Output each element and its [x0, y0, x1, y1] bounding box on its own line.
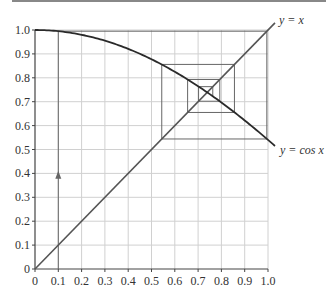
- cobweb-line: [58, 31, 267, 269]
- y-tick-label: 0.8: [15, 71, 30, 85]
- line-label: y = x: [278, 13, 304, 27]
- y-tick-label: 0: [24, 262, 30, 276]
- y-tick-label: 0.1: [15, 238, 30, 252]
- cobweb-path: [55, 31, 267, 269]
- curve-cos-x: [35, 30, 275, 146]
- x-tick-label: 1.0: [261, 274, 276, 288]
- x-tick-label: 0.3: [97, 274, 112, 288]
- y-tick-label: 0.3: [15, 190, 30, 204]
- cobweb-chart: 00.10.20.30.40.50.60.70.80.91.000.10.20.…: [0, 0, 336, 299]
- y-tick-label: 0.7: [15, 95, 30, 109]
- y-tick-label: 1.0: [15, 23, 30, 37]
- y-tick-label: 0.5: [15, 143, 30, 157]
- y-tick-label: 0.9: [15, 47, 30, 61]
- x-tick-label: 0.5: [144, 274, 159, 288]
- arrow-up-icon: [55, 171, 61, 179]
- x-tick-label: 0.2: [74, 274, 89, 288]
- y-tick-label: 0.2: [15, 214, 30, 228]
- x-tick-label: 0: [32, 274, 38, 288]
- y-tick-label: 0.4: [15, 166, 30, 180]
- x-tick-label: 0.8: [214, 274, 229, 288]
- series: [35, 23, 275, 269]
- x-tick-label: 0.9: [237, 274, 252, 288]
- x-tick-label: 0.6: [167, 274, 182, 288]
- x-tick-label: 0.4: [121, 274, 136, 288]
- x-tick-label: 0.7: [191, 274, 206, 288]
- x-tick-label: 0.1: [51, 274, 66, 288]
- curve-label: y = cos x: [279, 143, 324, 157]
- line-y-equals-x: [35, 23, 275, 269]
- y-tick-label: 0.6: [15, 119, 30, 133]
